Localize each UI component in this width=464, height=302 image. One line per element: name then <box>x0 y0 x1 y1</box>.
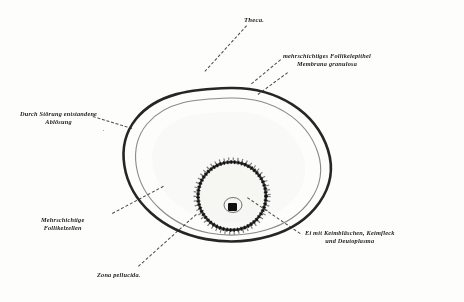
label-abloesung-line1: Durch Störung entstandene <box>20 110 97 118</box>
label-abloesung: Durch Störung entstandene Ablösung <box>20 110 97 126</box>
histology-figure: Theca. mehrschichtiges Follikelepithel M… <box>0 0 464 302</box>
label-theca-text: Theca. <box>244 16 264 23</box>
label-ei-line2: und Deutoplasma <box>305 237 395 245</box>
label-ei-line1: Ei mit Keimbläschen, Keimfleck <box>305 229 395 237</box>
label-follikelepithel-line1: mehrschichtiges Follikelepithel <box>283 52 371 60</box>
label-membrana-granulosa: Membrana granulosa <box>283 60 371 68</box>
drawing-stage <box>0 0 464 302</box>
label-theca: Theca. <box>244 16 264 24</box>
label-ei: Ei mit Keimbläschen, Keimfleck und Deuto… <box>305 229 395 245</box>
label-follikelzellen: Mehrschichtige Follikelzellen <box>41 216 84 232</box>
label-follikelepithel: mehrschichtiges Follikelepithel Membrana… <box>283 52 371 68</box>
label-follikelzellen-line2: Follikelzellen <box>41 224 84 232</box>
paper-grain-overlay <box>0 0 464 302</box>
label-follikelzellen-line1: Mehrschichtige <box>41 216 84 224</box>
label-zona-pellucida: Zona pellucida. <box>97 271 141 279</box>
label-zona-pellucida-text: Zona pellucida. <box>97 271 141 278</box>
label-abloesung-line2: Ablösung <box>20 118 97 126</box>
